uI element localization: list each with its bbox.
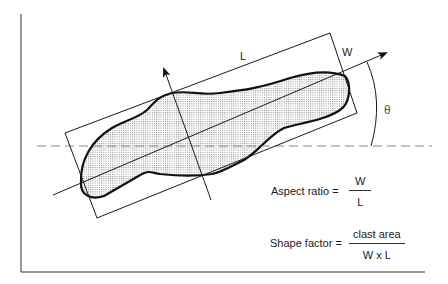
aspect-ratio-label: Aspect ratio =: [271, 186, 339, 197]
length-label: L: [240, 51, 246, 62]
shape-factor-label: Shape factor =: [270, 238, 342, 249]
clast-outline: [81, 72, 349, 197]
shape-factor-denominator: W x L: [363, 244, 391, 261]
aspect-ratio-numerator: W: [349, 175, 371, 191]
width-label: W: [342, 47, 352, 58]
aspect-ratio-fraction: W L: [349, 175, 371, 208]
theta-angle-arc: [367, 62, 377, 146]
shape-factor-fraction: clast area W x L: [349, 228, 405, 261]
aspect-ratio-denominator: L: [357, 191, 363, 208]
theta-label: θ: [384, 104, 391, 116]
shape-factor-numerator: clast area: [349, 228, 405, 244]
